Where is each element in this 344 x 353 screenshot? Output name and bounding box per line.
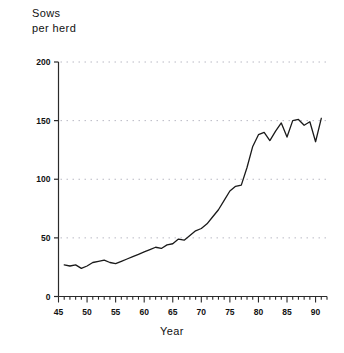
data-series	[64, 118, 321, 268]
y-tick-label: 150	[36, 116, 50, 126]
x-tick-label: 45	[54, 307, 64, 317]
y-tick-labels: 050100150200	[36, 57, 50, 302]
x-tick-label: 65	[168, 307, 178, 317]
y-tick-label: 100	[36, 174, 50, 184]
y-tick-label: 0	[46, 292, 51, 302]
x-tick-label: 55	[111, 307, 121, 317]
x-axis-title: Year	[0, 325, 344, 337]
x-tick-label: 50	[82, 307, 92, 317]
x-tick-label: 90	[311, 307, 321, 317]
x-tick-label: 70	[197, 307, 207, 317]
series-line	[64, 118, 321, 268]
x-tick-label: 85	[282, 307, 292, 317]
y-axis	[54, 62, 59, 297]
chart-container: Sows per herd 050100150200 4550556065707…	[0, 0, 344, 353]
x-tick-label: 75	[225, 307, 235, 317]
x-tick-label: 80	[254, 307, 264, 317]
x-axis	[59, 297, 328, 303]
x-tick-label: 60	[139, 307, 149, 317]
y-tick-label: 50	[41, 233, 51, 243]
y-tick-label: 200	[36, 57, 50, 67]
line-chart-plot: 050100150200 45505560657075808590	[0, 0, 344, 353]
y-axis-title: Sows per herd	[32, 6, 76, 36]
gridlines	[61, 62, 328, 238]
x-tick-labels: 45505560657075808590	[54, 307, 321, 317]
